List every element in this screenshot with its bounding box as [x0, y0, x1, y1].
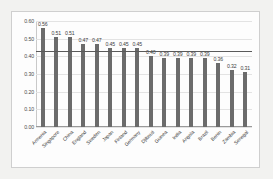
- y-axis-tick-label: 0.50: [24, 36, 34, 42]
- bar: [203, 58, 207, 127]
- bar: [108, 48, 112, 128]
- x-label-slot: Sweden: [90, 128, 104, 168]
- bar-item: 0.40: [144, 21, 158, 127]
- y-axis-tick-label: 0.30: [24, 71, 34, 77]
- bar: [81, 44, 85, 127]
- bar-item: 0.45: [117, 21, 131, 127]
- bar-item: 0.45: [131, 21, 145, 127]
- bar-item: 0.45: [104, 21, 118, 127]
- bar-item: 0.31: [239, 21, 253, 127]
- x-axis-category-labels: ArmeniaSingaporeChinaEnglandSwedenJapanF…: [36, 128, 252, 168]
- bar-item: 0.39: [185, 21, 199, 127]
- x-label-slot: England: [77, 128, 91, 168]
- bar: [176, 58, 180, 127]
- bar: [216, 63, 220, 127]
- y-axis-tick-label: 0.20: [24, 89, 34, 95]
- bar-value-label: 0.32: [227, 63, 237, 69]
- bar: [149, 56, 153, 127]
- x-label-slot: Senegal: [239, 128, 253, 168]
- bar-item: 0.51: [50, 21, 64, 127]
- y-axis-tick-label: 0.60: [24, 18, 34, 24]
- x-label-slot: Finland: [117, 128, 131, 168]
- bar-value-label: 0.45: [119, 41, 129, 47]
- bar-value-label: 0.51: [65, 30, 75, 36]
- bar-item: 0.39: [158, 21, 172, 127]
- y-axis-tick-label: 0.00: [24, 124, 34, 130]
- bar: [122, 48, 126, 128]
- x-label-slot: Djibouti: [144, 128, 158, 168]
- x-label-slot: China: [63, 128, 77, 168]
- bar-item: 0.36: [212, 21, 226, 127]
- bar-series: 0.560.510.510.470.470.450.450.450.400.39…: [36, 21, 252, 127]
- bar-item: 0.56: [36, 21, 50, 127]
- bar-item: 0.39: [171, 21, 185, 127]
- bar: [189, 58, 193, 127]
- x-label-slot: India: [171, 128, 185, 168]
- x-label-slot: Armenia: [36, 128, 50, 168]
- chart-panel: 0.600.500.400.300.200.100.00 0.560.510.5…: [11, 11, 260, 168]
- bar-value-label: 0.45: [106, 41, 116, 47]
- bar-item: 0.32: [225, 21, 239, 127]
- bar-item: 0.39: [198, 21, 212, 127]
- x-axis-tick-label: Brazil: [196, 129, 209, 142]
- x-label-slot: Singapore: [50, 128, 64, 168]
- bar-item: 0.47: [90, 21, 104, 127]
- x-label-slot: Germany: [131, 128, 145, 168]
- bar-value-label: 0.47: [79, 37, 89, 43]
- plot-area: 0.600.500.400.300.200.100.00 0.560.510.5…: [36, 21, 252, 127]
- bar-item: 0.47: [77, 21, 91, 127]
- chart-figure: 0.600.500.400.300.200.100.00 0.560.510.5…: [0, 0, 273, 179]
- bar: [95, 44, 99, 127]
- bar: [41, 28, 45, 127]
- bar: [135, 48, 139, 128]
- x-label-slot: Benin: [212, 128, 226, 168]
- x-label-slot: Japan: [104, 128, 118, 168]
- bar: [162, 58, 166, 127]
- bar-value-label: 0.36: [214, 56, 224, 62]
- x-label-slot: Brazil: [198, 128, 212, 168]
- bar: [230, 70, 234, 127]
- bar-item: 0.51: [63, 21, 77, 127]
- x-label-slot: Zambia: [225, 128, 239, 168]
- y-axis-tick-label: 0.40: [24, 53, 34, 59]
- bar-value-label: 0.51: [52, 30, 62, 36]
- x-label-slot: Angola: [185, 128, 199, 168]
- bar-value-label: 0.31: [241, 65, 251, 71]
- bar-value-label: 0.45: [133, 41, 143, 47]
- reference-line: [36, 51, 252, 52]
- bar: [243, 72, 247, 127]
- bar-value-label: 0.56: [38, 21, 48, 27]
- x-label-slot: Guinea: [158, 128, 172, 168]
- y-axis-tick-label: 0.10: [24, 106, 34, 112]
- bar-value-label: 0.47: [92, 37, 102, 43]
